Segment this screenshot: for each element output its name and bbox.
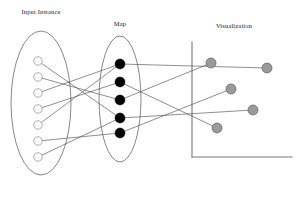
visualization-label: Visualization — [216, 22, 253, 29]
edges-input-to-map — [38, 61, 120, 157]
map-node-m4 — [115, 113, 125, 123]
vis-node-v3 — [226, 84, 236, 94]
input-node-i4 — [34, 105, 42, 113]
edge-m1-v2 — [120, 64, 267, 68]
edge-i5-m1 — [38, 64, 120, 125]
vis-node-v2 — [262, 63, 272, 73]
input-instance-label: Input Instance — [21, 8, 60, 15]
input-node-i6 — [34, 137, 42, 145]
diagram-canvas: Input Instance Map Visualization — [0, 0, 307, 215]
map-node-m3 — [115, 95, 125, 105]
edge-i6-m5 — [38, 133, 120, 141]
edges-map-to-visualization — [120, 63, 267, 133]
mapping-diagram: Input Instance Map Visualization — [0, 0, 307, 215]
input-node-i1 — [34, 57, 42, 65]
vis-node-v1 — [206, 58, 216, 68]
map-nodes — [115, 59, 125, 138]
vis-node-v4 — [248, 105, 258, 115]
edge-m2-v5 — [120, 82, 217, 128]
visualization-axes — [192, 42, 292, 157]
input-node-i7 — [34, 153, 42, 161]
edge-m4-v4 — [120, 110, 253, 118]
edge-m3-v1 — [120, 63, 211, 100]
input-node-i2 — [34, 73, 42, 81]
edge-i7-m4 — [38, 118, 120, 157]
input-node-i3 — [34, 89, 42, 97]
input-node-i5 — [34, 121, 42, 129]
map-label: Map — [114, 20, 126, 27]
input-instance-ellipse — [11, 31, 71, 175]
edge-i4-m2 — [38, 82, 120, 109]
map-node-m2 — [115, 77, 125, 87]
edge-i1-m4 — [38, 61, 120, 118]
visualization-nodes — [206, 58, 272, 133]
input-instance-nodes — [34, 57, 42, 161]
vis-node-v5 — [212, 123, 222, 133]
map-node-m5 — [115, 128, 125, 138]
map-node-m1 — [115, 59, 125, 69]
